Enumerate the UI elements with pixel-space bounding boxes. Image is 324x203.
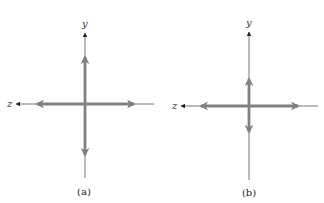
figure: y z (a) y z (b) <box>0 0 324 203</box>
panel-label-b: (b) <box>242 187 256 198</box>
panel-label-a: (a) <box>77 186 91 197</box>
panel-a: y z (a) <box>6 18 154 197</box>
y-axis-label: y <box>81 18 88 29</box>
y-axis-label: y <box>245 17 252 28</box>
panel-b: y z (b) <box>171 17 318 198</box>
z-axis-label: z <box>6 98 13 109</box>
z-axis-label: z <box>171 100 178 111</box>
